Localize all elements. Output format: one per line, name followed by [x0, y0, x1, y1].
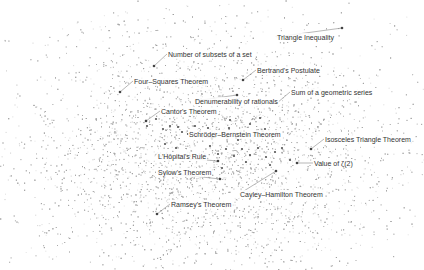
annotation-label: Sylow's Theorem — [157, 168, 212, 177]
annotation-label: Four–Squares Theorem — [133, 77, 209, 86]
annotation-label: Number of subsets of a set — [167, 50, 253, 59]
annotated-point — [242, 79, 245, 82]
annotation-label: Denumerability of rationals — [194, 97, 279, 106]
annotation-label: Ramsey's Theorem — [170, 200, 232, 209]
annotated-point — [219, 178, 222, 181]
scatter-chart: Triangle InequalityNumber of subsets of … — [0, 0, 424, 270]
annotation-leader-line — [277, 92, 290, 103]
annotation-label: L'Hôpital's Rule — [157, 152, 207, 161]
annotated-point — [145, 120, 148, 123]
annotation-leader-line — [146, 111, 160, 121]
annotation-leader-line — [154, 54, 167, 66]
annotated-point — [296, 162, 299, 165]
annotation-label: Cantor's Theorem — [160, 107, 218, 116]
annotated-point — [217, 160, 220, 163]
annotation-leader-line — [243, 70, 256, 80]
annotation-leader-line — [311, 139, 324, 149]
annotated-point — [310, 148, 313, 151]
annotated-point — [341, 27, 344, 30]
annotated-point — [119, 91, 122, 94]
annotation-label: Bertrand's Postulate — [256, 66, 321, 75]
annotation-label: Cayley–Hamilton Theorem — [239, 190, 324, 199]
annotation-label: Sum of a geometric series — [290, 88, 373, 97]
annotation-label: Triangle Inequality — [276, 33, 335, 42]
annotation-label: Isosceles Triangle Theorem — [324, 135, 412, 144]
annotation-label: Schröder–Bernstein Theorem — [188, 130, 282, 139]
annotated-point — [236, 94, 239, 97]
annotated-point — [275, 170, 278, 173]
annotation-label: Value of ζ(2) — [313, 159, 354, 168]
annotated-point — [153, 65, 156, 68]
annotated-point — [156, 213, 159, 216]
